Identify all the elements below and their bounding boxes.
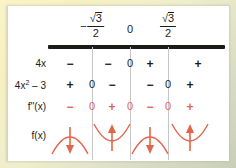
cell-4x-c5: + [146, 57, 153, 71]
concavity-arc-interval-2 [91, 118, 133, 158]
cell-fpp-c6: 0 [165, 100, 171, 112]
row-label-4x: 4x [35, 58, 46, 69]
cell-4x-c4: 0 [127, 57, 133, 69]
cell-4x2-c5: − [146, 78, 153, 92]
number-line-axis [48, 45, 225, 49]
sign-chart-card: −√32 0 √32 4x − − 0 + + 4x2 – 3 + 0 − − … [8, 6, 229, 161]
radical-text: √3 [162, 12, 174, 24]
tick-label-neg-sqrt3-over-2: −√32 [80, 12, 104, 39]
cell-4x2-c2: 0 [89, 78, 95, 90]
cell-4x-c3: − [104, 57, 111, 71]
tick-label-zero: 0 [127, 24, 133, 35]
concavity-arc-interval-4 [169, 118, 211, 158]
cell-4x2-c3: − [108, 78, 115, 92]
row-label-4x2-minus-3: 4x2 – 3 [15, 79, 46, 91]
cell-4x-c7: + [194, 57, 201, 71]
row-label-tail: – 3 [29, 80, 46, 91]
radical-text: √3 [90, 12, 102, 24]
cell-4x2-c7: + [186, 78, 193, 92]
concavity-arc-interval-1 [49, 118, 91, 158]
cell-fpp-c5: − [146, 100, 153, 114]
fraction-denominator: 2 [93, 28, 99, 40]
cell-fpp-c7: + [186, 100, 193, 114]
fraction-numerator: √3 [160, 12, 176, 25]
fraction-neg-sqrt3-2: √32 [88, 12, 104, 39]
cell-fpp-c4: 0 [127, 100, 133, 112]
cell-4x-c1: − [66, 57, 73, 71]
cell-4x2-c6: 0 [165, 78, 171, 90]
concavity-arc-interval-3 [129, 118, 171, 158]
radical-overbar [168, 12, 174, 13]
fraction-denominator: 2 [165, 28, 171, 40]
photo-frame: −√32 0 √32 4x − − 0 + + 4x2 – 3 + 0 − − … [0, 0, 236, 168]
cell-fpp-c3: + [108, 100, 115, 114]
cell-fpp-c1: − [66, 100, 73, 114]
row-label-base: 4x [15, 80, 26, 91]
fraction-numerator: √3 [88, 12, 104, 25]
radical-icon: √3 [162, 12, 174, 25]
cell-fpp-c2: 0 [89, 100, 95, 112]
radical-icon: √3 [90, 12, 102, 25]
radical-overbar [96, 12, 102, 13]
cell-4x2-c1: + [66, 78, 73, 92]
row-label-f: f(x) [32, 130, 46, 141]
row-label-f-double-prime: f''(x) [28, 101, 46, 112]
fraction-sqrt3-2: √32 [160, 12, 176, 39]
minus-sign-glyph: − [80, 21, 86, 32]
tick-label-pos-sqrt3-over-2: √32 [160, 12, 176, 39]
